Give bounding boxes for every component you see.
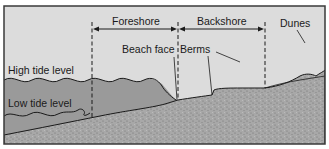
beach-face-label: Beach face — [122, 44, 175, 55]
low-tide-label: Low tide level — [8, 98, 72, 109]
foreshore-label: Foreshore — [112, 16, 160, 27]
berms-label: Berms — [180, 44, 210, 55]
backshore-label: Backshore — [197, 16, 247, 27]
high-tide-label: High tide level — [8, 65, 74, 76]
dunes-label: Dunes — [280, 18, 310, 29]
